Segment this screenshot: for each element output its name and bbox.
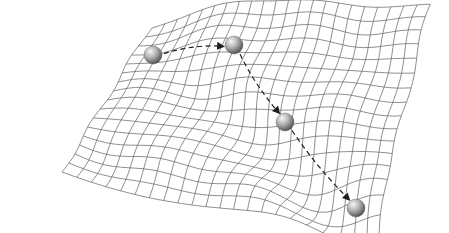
mesh-line <box>106 15 190 187</box>
mesh-line <box>122 64 415 73</box>
mesh-line <box>69 163 380 227</box>
wireframe-surface <box>62 0 430 233</box>
mesh-line <box>234 0 301 209</box>
mesh-line <box>80 145 388 195</box>
mesh-line <box>307 7 365 225</box>
mesh-line <box>354 6 404 233</box>
mesh-line <box>100 108 397 129</box>
landscape-diagram <box>0 0 449 233</box>
mesh-line <box>75 154 384 212</box>
mesh-line <box>149 3 227 198</box>
mesh-line <box>192 1 264 205</box>
mesh-line <box>107 97 401 116</box>
ball-3-sphere <box>276 113 294 131</box>
mesh-line <box>88 127 393 160</box>
mesh-line <box>118 77 411 88</box>
mesh-line <box>93 118 394 145</box>
ball-1-sphere <box>144 46 162 64</box>
ball-4-sphere <box>347 199 365 217</box>
ball-2-sphere <box>225 36 243 54</box>
mesh-line <box>62 28 152 172</box>
mesh-line <box>178 1 252 203</box>
mesh-line <box>135 6 215 195</box>
mesh-line <box>247 0 313 210</box>
mesh-line <box>126 52 417 64</box>
landscape-svg <box>0 0 449 233</box>
mesh-line <box>367 5 417 233</box>
mesh-line <box>220 0 289 208</box>
mesh-line <box>261 1 326 212</box>
mesh-line <box>206 1 276 207</box>
mesh-line <box>91 19 177 182</box>
